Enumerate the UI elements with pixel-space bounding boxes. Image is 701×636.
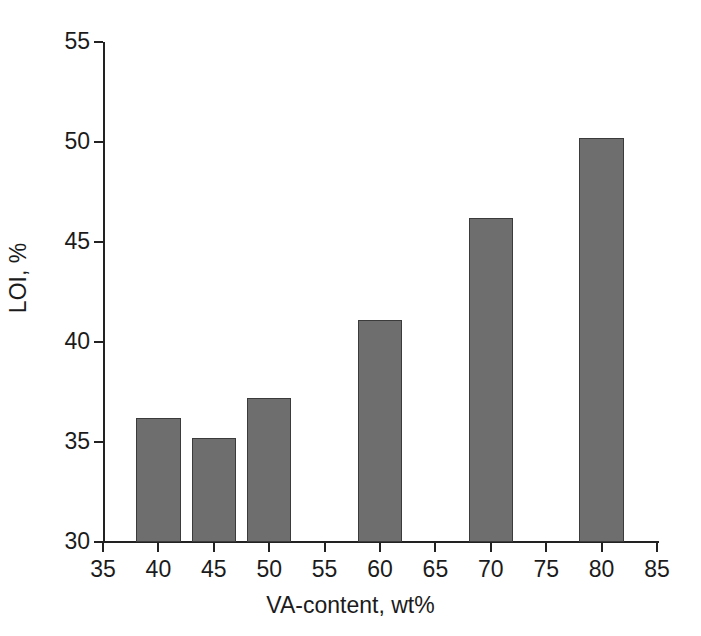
- x-tick: [434, 543, 436, 552]
- x-tick: [545, 543, 547, 552]
- bar: [469, 218, 513, 542]
- y-axis-title: LOI, %: [5, 198, 31, 358]
- bar: [579, 138, 623, 542]
- y-tick: [94, 241, 103, 243]
- x-tick: [601, 543, 603, 552]
- y-axis-line: [103, 42, 105, 543]
- x-tick-label: 85: [627, 558, 687, 581]
- x-axis-title: VA-content, wt%: [0, 592, 701, 618]
- y-tick-label: 30: [64, 530, 90, 553]
- bar: [136, 418, 180, 542]
- bar-chart: 303540455055 3540455055606570758085 LOI,…: [0, 0, 701, 636]
- x-tick-label: 65: [405, 558, 465, 581]
- x-tick-label: 80: [572, 558, 632, 581]
- y-tick: [94, 341, 103, 343]
- x-tick-label: 50: [239, 558, 299, 581]
- x-tick-label: 35: [73, 558, 133, 581]
- x-tick-label: 45: [184, 558, 244, 581]
- x-tick: [102, 543, 104, 552]
- x-tick-label: 70: [461, 558, 521, 581]
- x-tick-label: 40: [128, 558, 188, 581]
- y-tick: [94, 41, 103, 43]
- y-tick: [94, 441, 103, 443]
- y-tick-label: 55: [64, 30, 90, 53]
- bar: [358, 320, 402, 542]
- y-tick: [94, 141, 103, 143]
- x-tick: [379, 543, 381, 552]
- x-tick: [656, 543, 658, 552]
- x-tick: [157, 543, 159, 552]
- x-tick: [213, 543, 215, 552]
- x-tick-label: 55: [295, 558, 355, 581]
- x-tick-label: 60: [350, 558, 410, 581]
- y-tick-label: 45: [64, 230, 90, 253]
- bar: [247, 398, 291, 542]
- bar: [192, 438, 236, 542]
- x-tick: [490, 543, 492, 552]
- x-tick-label: 75: [516, 558, 576, 581]
- y-tick-label: 35: [64, 430, 90, 453]
- x-tick: [268, 543, 270, 552]
- x-tick: [324, 543, 326, 552]
- y-tick-label: 40: [64, 330, 90, 353]
- y-tick-label: 50: [64, 130, 90, 153]
